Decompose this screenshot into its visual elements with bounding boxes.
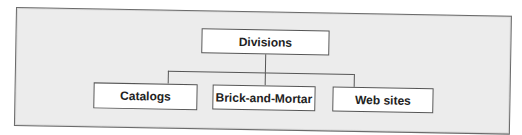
node-label: Divisions [239, 34, 293, 49]
node-label: Brick-and-Mortar [215, 90, 312, 106]
node-label: Catalogs [120, 89, 171, 104]
connector-brick-and-mortar [265, 72, 266, 85]
connector-web-sites [354, 74, 355, 87]
child-node-brick-and-mortar: Brick-and-Mortar [212, 84, 315, 111]
child-node-catalogs: Catalogs [93, 82, 197, 110]
connector-horizontal-bar [168, 71, 354, 75]
connector-root-vertical [265, 54, 266, 72]
node-label: Web sites [355, 92, 411, 107]
root-node-divisions: Divisions [201, 28, 329, 55]
child-node-web-sites: Web sites [332, 87, 433, 114]
connector-catalogs [168, 71, 169, 84]
diagram-frame: Divisions Catalogs Brick-and-Mortar Web … [14, 7, 512, 135]
